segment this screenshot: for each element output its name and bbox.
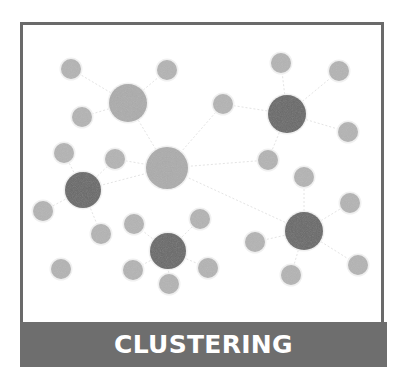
- data-point-node: [33, 201, 53, 221]
- cluster-centroid-node: [285, 212, 323, 250]
- title-banner: CLUSTERING: [20, 322, 387, 367]
- data-point-node: [123, 260, 143, 280]
- cluster-centroid-node: [150, 233, 186, 269]
- data-point-node: [329, 61, 349, 81]
- cluster-centroid-node: [65, 172, 101, 208]
- data-point-node: [124, 214, 144, 234]
- data-point-node: [340, 193, 360, 213]
- data-point-node: [245, 232, 265, 252]
- data-point-node: [198, 258, 218, 278]
- data-point-node: [105, 149, 125, 169]
- data-point-node: [157, 60, 177, 80]
- banner-title: CLUSTERING: [114, 330, 293, 359]
- large-node: [109, 84, 147, 122]
- data-point-node: [338, 122, 358, 142]
- data-point-node: [190, 209, 210, 229]
- data-point-node: [348, 255, 368, 275]
- data-point-node: [271, 53, 291, 73]
- data-point-node: [51, 259, 71, 279]
- edge-line: [167, 168, 304, 231]
- data-point-node: [54, 143, 74, 163]
- cluster-centroid-node: [268, 95, 306, 133]
- data-point-node: [294, 167, 314, 187]
- data-point-node: [258, 150, 278, 170]
- data-point-node: [213, 94, 233, 114]
- data-point-node: [61, 59, 81, 79]
- large-node: [146, 147, 188, 189]
- data-point-node: [159, 274, 179, 294]
- data-point-node: [281, 265, 301, 285]
- data-point-node: [72, 107, 92, 127]
- data-point-node: [91, 224, 111, 244]
